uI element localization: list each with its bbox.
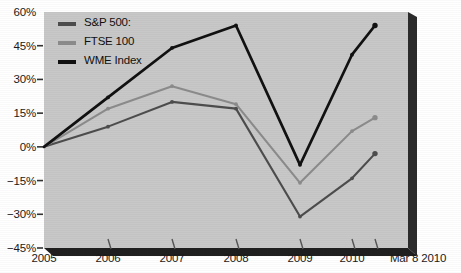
legend-label-wme-index: WME Index xyxy=(84,54,142,66)
x-axis-tick-label: 2009 xyxy=(288,252,313,264)
series-data-point xyxy=(170,84,174,88)
x-axis-tick-label: Mar 8 2010 xyxy=(390,252,446,264)
series-data-point xyxy=(234,107,238,111)
series-endpoint-marker xyxy=(372,23,377,28)
series-data-point xyxy=(170,100,174,104)
series-data-point xyxy=(350,176,354,180)
chart-legend: S&P 500: FTSE 100 WME Index xyxy=(58,16,198,73)
series-data-point xyxy=(298,181,302,185)
series-data-point xyxy=(106,107,110,111)
x-axis-tick-label: 2007 xyxy=(160,252,185,264)
chart-container: 60%45%30%15%0%−15%−30%−45% S&P 500: FTSE… xyxy=(0,0,461,273)
series-data-point xyxy=(106,96,110,100)
legend-swatch-sp500 xyxy=(58,22,76,26)
x-axis-tick-label: 2005 xyxy=(32,252,57,264)
series-data-point xyxy=(350,53,354,57)
series-data-point xyxy=(234,102,238,106)
x-axis-tick-label: 2010 xyxy=(340,252,365,264)
series-data-point xyxy=(234,24,238,28)
legend-item-sp500: S&P 500: xyxy=(58,16,198,32)
legend-swatch-wme-index xyxy=(58,60,76,64)
series-data-point xyxy=(298,163,302,167)
x-axis-labels: 200520062007200820092010Mar 8 2010 xyxy=(0,250,461,273)
x-axis-tick-label: 2006 xyxy=(96,252,121,264)
legend-swatch-ftse100 xyxy=(58,41,76,45)
legend-item-ftse100: FTSE 100 xyxy=(58,35,198,51)
series-data-point xyxy=(350,129,354,133)
series-data-point xyxy=(298,215,302,219)
series-data-point xyxy=(106,125,110,129)
series-endpoint-marker xyxy=(372,151,377,156)
series-endpoint-marker xyxy=(372,115,377,120)
plot-3d-right-edge xyxy=(408,12,417,256)
x-axis-tick-label: 2008 xyxy=(224,252,249,264)
legend-label-sp500: S&P 500: xyxy=(84,16,131,28)
legend-label-ftse100: FTSE 100 xyxy=(84,35,134,47)
legend-item-wme-index: WME Index xyxy=(58,54,198,70)
